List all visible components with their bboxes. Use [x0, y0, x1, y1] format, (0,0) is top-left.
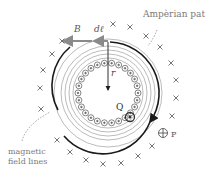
- B-label: B: [74, 24, 81, 34]
- r-label: r: [111, 68, 115, 78]
- P-label: P: [171, 130, 176, 139]
- amperian-path-label: Ampèrian path: [143, 9, 205, 19]
- P-symbol: [159, 129, 168, 138]
- magnetic-field-lines-label-2: field lines: [8, 157, 47, 166]
- dl-label: dℓ: [94, 24, 104, 34]
- magnetic-field-lines-label: magnetic: [8, 147, 46, 156]
- Q-label: Q: [116, 102, 123, 112]
